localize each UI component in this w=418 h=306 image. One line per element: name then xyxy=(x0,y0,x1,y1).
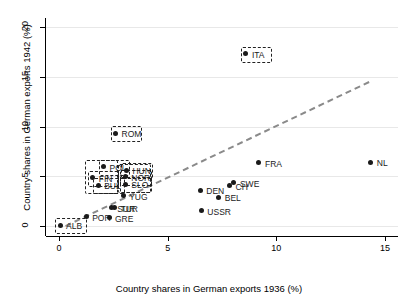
point-label-nl: NL xyxy=(377,158,388,168)
point-label-den: DEN xyxy=(206,186,224,196)
data-point-rom xyxy=(113,131,118,136)
point-label-sur: SUR xyxy=(117,204,135,214)
point-label-alb: ALB xyxy=(66,221,82,231)
data-point-den xyxy=(198,188,203,193)
point-label-gre: GRE xyxy=(115,214,133,224)
data-point-por xyxy=(84,214,89,219)
data-point-alb xyxy=(58,223,63,228)
data-point-hun xyxy=(124,168,129,173)
data-point-sur xyxy=(109,205,114,210)
reference-line xyxy=(0,0,418,306)
data-point-ussr xyxy=(199,208,204,213)
point-label-yug: YUG xyxy=(129,192,147,202)
scatter-chart-figure: Country shares in German exports 1942 (%… xyxy=(0,0,418,306)
point-label-swe: SWE xyxy=(240,179,259,189)
point-label-fra: FRA xyxy=(265,159,282,169)
point-label-bel: BEL xyxy=(225,193,241,203)
point-label-ita: ITA xyxy=(252,50,265,60)
data-point-gre xyxy=(107,215,112,220)
point-label-hun: HUN xyxy=(132,166,150,176)
point-label-ussr: USSR xyxy=(207,207,231,217)
point-label-rom: ROM xyxy=(122,129,142,139)
